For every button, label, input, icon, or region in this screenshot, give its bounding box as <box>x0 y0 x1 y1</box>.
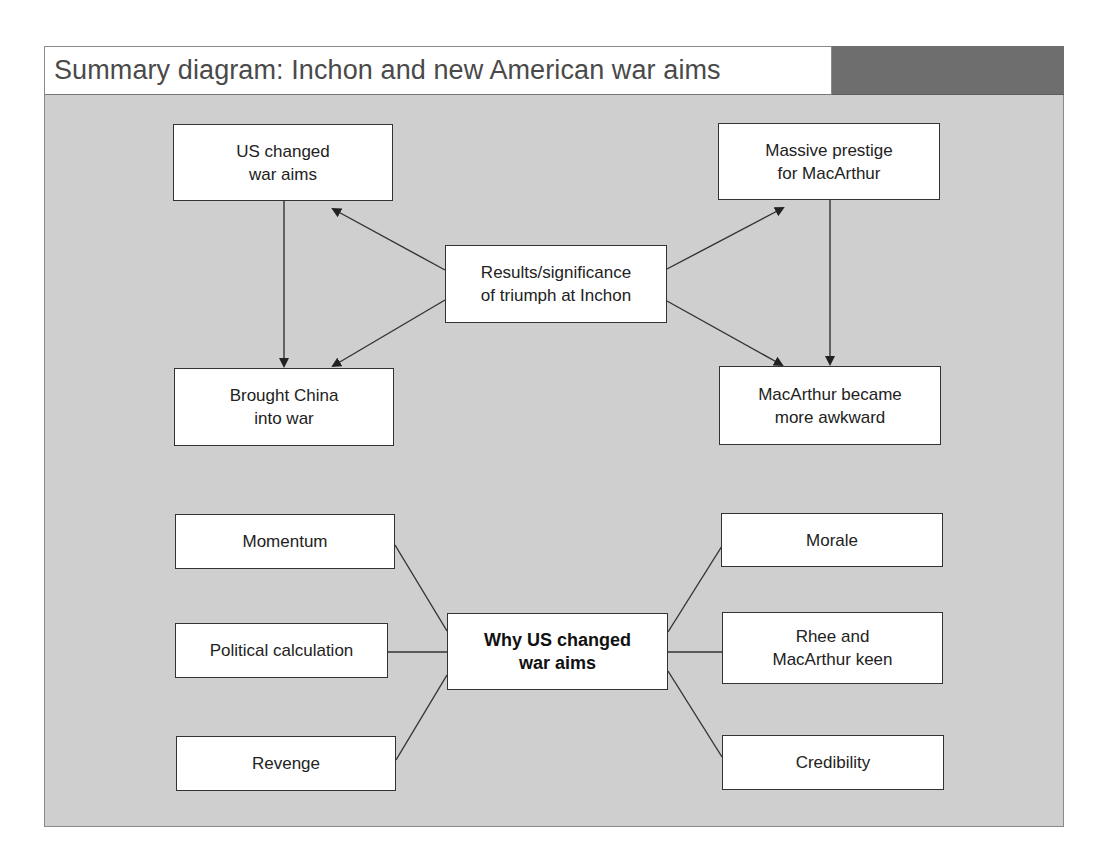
diagram-title: Summary diagram: Inchon and new American… <box>44 46 832 95</box>
node-massive-prestige: Massive prestige for MacArthur <box>718 123 940 200</box>
node-results-significance: Results/significance of triumph at Incho… <box>445 245 667 323</box>
node-political-calculation: Political calculation <box>175 623 388 678</box>
node-us-changed-war-aims: US changed war aims <box>173 124 393 201</box>
node-morale: Morale <box>721 513 943 567</box>
node-credibility: Credibility <box>722 735 944 790</box>
title-accent-bar <box>832 46 1064 95</box>
node-revenge: Revenge <box>176 736 396 791</box>
node-momentum: Momentum <box>175 514 395 569</box>
node-macarthur-awkward: MacArthur became more awkward <box>719 366 941 445</box>
node-why-us-changed-war-aims: Why US changed war aims <box>447 613 668 690</box>
node-brought-china: Brought China into war <box>174 368 394 446</box>
node-rhee-macarthur-keen: Rhee and MacArthur keen <box>722 612 943 684</box>
